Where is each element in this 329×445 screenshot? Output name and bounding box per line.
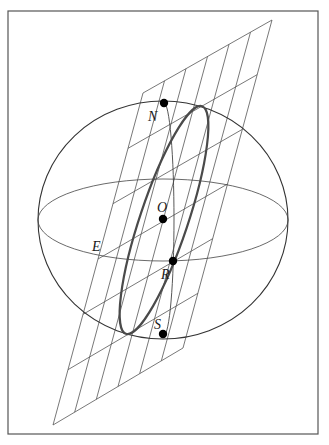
label-E: E: [91, 239, 101, 254]
point-R: [169, 257, 177, 265]
point-N: [160, 99, 168, 107]
diagram-canvas: N O R S E: [0, 0, 329, 445]
label-N: N: [147, 109, 158, 124]
label-O: O: [157, 200, 167, 215]
point-O: [159, 215, 167, 223]
sphere-plane-diagram: N O R S E: [0, 0, 329, 445]
label-S: S: [154, 317, 161, 332]
label-R: R: [160, 267, 170, 282]
